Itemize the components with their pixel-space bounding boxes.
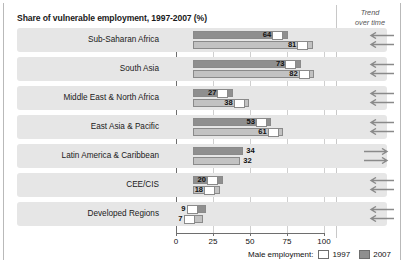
value-end-box [268, 128, 279, 137]
trend-arrow-left-icon [364, 41, 394, 48]
value-end-box [285, 60, 296, 69]
value-end-box [207, 176, 218, 185]
trend-arrow-left-icon [364, 90, 394, 97]
trend-arrow-left-icon [364, 186, 394, 193]
value-end-box [297, 41, 308, 50]
category-label: Developed Regions [17, 202, 159, 226]
value-end-box [187, 205, 198, 214]
bar-group: 3432 [176, 146, 376, 166]
bar-value-label-1997: 7 [178, 214, 194, 224]
legend-item-1997: 1997 [318, 250, 350, 259]
chart-title: Share of vulnerable employment, 1997-200… [17, 13, 207, 23]
x-tick [176, 233, 177, 236]
bar-group: 97 [176, 204, 376, 224]
category-label: Latin America & Caribbean [17, 144, 159, 168]
trend-arrow-left-icon [364, 119, 394, 126]
value-text: 82 [289, 69, 297, 79]
chart-row: South Asia7382 [17, 57, 387, 81]
category-label: Middle East & North Africa [17, 86, 159, 110]
value-text: 34 [246, 146, 254, 156]
trend-cell [358, 57, 402, 81]
bar-value-label-1997: 81 [288, 40, 308, 50]
x-tick-label: 75 [277, 237, 297, 246]
category-label: Sub-Saharan Africa [17, 28, 159, 52]
bar-fill-1997 [193, 157, 240, 165]
value-end-box [204, 186, 215, 195]
bar-value-label-1997: 61 [258, 127, 278, 137]
value-text: 27 [208, 88, 216, 98]
legend-label-2007: 2007 [373, 250, 391, 259]
bar-value-label-2007: 9 [181, 204, 197, 214]
trend-arrow-left-icon [364, 32, 394, 39]
legend-swatch-2007 [359, 250, 370, 259]
value-text: 9 [181, 204, 185, 214]
bar-group: 7382 [176, 59, 376, 79]
chart-row: Middle East & North Africa2738 [17, 86, 387, 110]
trend-arrow-right-icon [364, 148, 394, 155]
trend-cell [358, 173, 402, 197]
trend-arrow-left-icon [364, 206, 394, 213]
trend-arrow-right-icon [364, 157, 394, 164]
trend-cell [358, 202, 402, 226]
trend-arrow-left-icon [364, 128, 394, 135]
value-end-box [234, 99, 245, 108]
trend-column-header: Trend over time [345, 8, 395, 27]
value-text: 81 [288, 40, 296, 50]
legend-label-1997: 1997 [332, 250, 350, 259]
value-end-box [299, 70, 310, 79]
legend-item-2007: 2007 [359, 250, 391, 259]
bar-value-label-1997: 38 [224, 98, 244, 108]
bar-value-label-1997: 32 [240, 156, 251, 166]
trend-arrow-left-icon [364, 61, 394, 68]
trend-cell [358, 86, 402, 110]
x-tick [213, 233, 214, 236]
bar-group: 2018 [176, 175, 376, 195]
value-text: 7 [178, 214, 182, 224]
bar-fill-2007 [193, 147, 243, 155]
x-tick-label: 100 [314, 237, 334, 246]
value-end-box [256, 118, 267, 127]
bar-value-label-2007: 20 [198, 175, 218, 185]
x-tick [287, 233, 288, 236]
x-tick-label: 50 [240, 237, 260, 246]
category-label: South Asia [17, 57, 159, 81]
trend-cell [358, 115, 402, 139]
category-label: East Asia & Pacific [17, 115, 159, 139]
value-text: 18 [195, 185, 203, 195]
value-text: 38 [224, 98, 232, 108]
trend-arrow-left-icon [364, 215, 394, 222]
trend-cell [358, 28, 402, 52]
plot-area: Sub-Saharan Africa6481South Asia7382Midd… [0, 28, 405, 233]
category-label: CEE/CIS [17, 173, 159, 197]
legend-swatch-1997 [318, 250, 329, 259]
trend-arrow-left-icon [364, 99, 394, 106]
chart-row: Latin America & Caribbean3432 [17, 144, 387, 168]
trend-arrow-left-icon [364, 177, 394, 184]
trend-cell [358, 144, 402, 168]
x-tick-label: 0 [166, 237, 186, 246]
bar-value-label-2007: 34 [243, 146, 254, 156]
bar-value-label-1997: 82 [289, 69, 309, 79]
value-end-box [217, 89, 228, 98]
bar-value-label-2007: 64 [263, 30, 283, 40]
chart-row: Sub-Saharan Africa6481 [17, 28, 387, 52]
chart-row: East Asia & Pacific5361 [17, 115, 387, 139]
trend-header-line1: Trend [345, 8, 395, 18]
value-text: 20 [198, 175, 206, 185]
chart-row: Developed Regions97 [17, 202, 387, 226]
bar-group: 5361 [176, 117, 376, 137]
value-text: 53 [246, 117, 254, 127]
value-text: 73 [276, 59, 284, 69]
legend-title: Male employment: [248, 250, 313, 259]
chart-row: CEE/CIS2018 [17, 173, 387, 197]
bar-value-label-2007: 53 [246, 117, 266, 127]
trend-arrow-left-icon [364, 70, 394, 77]
value-text: 32 [243, 156, 251, 166]
bar-group: 2738 [176, 88, 376, 108]
bar-group: 6481 [176, 30, 376, 50]
value-text: 61 [258, 127, 266, 137]
bar-value-label-2007: 73 [276, 59, 296, 69]
bar-value-label-2007: 27 [208, 88, 228, 98]
x-tick [324, 233, 325, 236]
trend-header-line2: over time [345, 18, 395, 28]
